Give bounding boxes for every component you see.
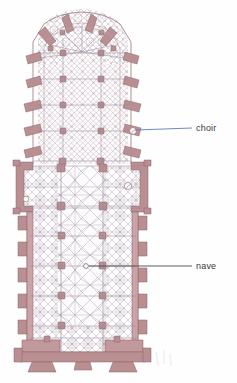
- choir-label: choir: [196, 124, 217, 133]
- vault-fields: [24, 9, 142, 354]
- cathedral-plan-drawing: [0, 0, 237, 383]
- faint-watermark: [156, 350, 171, 366]
- floor-plan-figure: choir nave: [0, 0, 237, 383]
- nave-label: nave: [196, 262, 216, 271]
- choir-leader-line: [135, 128, 192, 130]
